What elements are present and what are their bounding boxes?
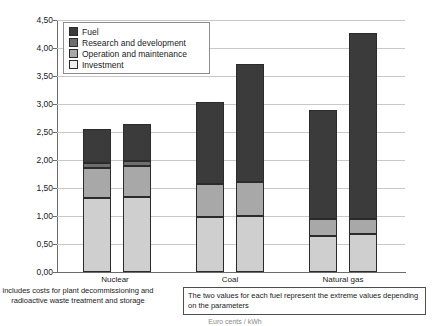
legend-label-fuel: Fuel: [82, 27, 99, 37]
bar-segment-operation-and-maintenance: [83, 168, 111, 198]
bar-segment-investment: [123, 197, 151, 272]
legend-swatch-fuel-icon: [69, 27, 78, 36]
bar-nuclear-low: [83, 129, 111, 272]
bar-natural-gas-high: [349, 33, 377, 272]
bar-segment-fuel: [349, 33, 377, 218]
legend-label-operation-and-maintenance: Operation and maintenance: [82, 49, 187, 59]
bar-natural-gas-low: [309, 110, 337, 272]
bar-segment-operation-and-maintenance: [349, 219, 377, 235]
bar-segment-operation-and-maintenance: [236, 182, 264, 216]
bar-segment-fuel: [309, 110, 337, 219]
bar-segment-research-and-development: [123, 161, 151, 166]
bar-segment-research-and-development: [83, 163, 111, 168]
gridline-4.50: [57, 20, 405, 21]
bar-nuclear-high: [123, 124, 151, 272]
bar-segment-investment: [349, 234, 377, 272]
nuclear-footnote: includes costs for plant decommissioning…: [2, 286, 154, 306]
legend-item-fuel: Fuel: [69, 26, 205, 37]
legend-item-research-and-development: Research and development: [69, 37, 205, 48]
y-tick-label-3.50: 3,50: [20, 72, 53, 81]
bar-segment-investment: [83, 198, 111, 272]
y-tick-label-2.50: 2,50: [20, 128, 53, 137]
legend-label-research-and-development: Research and development: [82, 38, 186, 48]
legend-swatch-research-and-development-icon: [69, 38, 78, 47]
bar-segment-fuel: [83, 129, 111, 163]
y-tick-label-4.00: 4,00: [20, 44, 53, 53]
y-tick-label-1.00: 1,00: [20, 212, 53, 221]
y-tick-label-2.00: 2,00: [20, 156, 53, 165]
x-axis-line: [57, 272, 406, 273]
chart-container: Euro cents / kWh 4,50 4,00 3,50 3,00 2,5…: [0, 0, 435, 326]
legend-item-operation-and-maintenance: Operation and maintenance: [69, 48, 205, 59]
y-tick-label-0.50: 0,50: [20, 240, 53, 249]
x-axis-label-nuclear: Nuclear: [60, 275, 170, 285]
bar-segment-investment: [236, 216, 264, 272]
y-tick-label-0.00: 0,00: [20, 268, 53, 277]
bar-segment-operation-and-maintenance: [123, 166, 151, 197]
bar-coal-low: [196, 102, 224, 272]
x-axis-label-natural-gas: Natural gas: [288, 275, 398, 285]
figure-caption: Euro cents / kWh: [120, 318, 350, 326]
extremes-note-box: The two values for each fuel represent t…: [183, 287, 426, 315]
legend-item-investment: Investment: [69, 59, 205, 70]
bar-segment-fuel: [196, 102, 224, 183]
y-tick-label-3.00: 3,00: [20, 100, 53, 109]
legend-swatch-investment-icon: [69, 60, 78, 69]
bar-segment-fuel: [236, 64, 264, 183]
y-tick-label-4.50: 4,50: [20, 16, 53, 25]
legend-label-investment: Investment: [82, 60, 124, 70]
x-axis-label-coal: Coal: [175, 275, 285, 285]
bar-segment-investment: [196, 217, 224, 272]
chart-legend: Fuel Research and development Operation …: [63, 22, 210, 74]
bar-segment-investment: [309, 236, 337, 272]
bar-segment-operation-and-maintenance: [196, 184, 224, 218]
bar-coal-high: [236, 64, 264, 272]
bar-segment-operation-and-maintenance: [309, 219, 337, 236]
bar-segment-fuel: [123, 124, 151, 161]
y-tick-label-1.50: 1,50: [20, 184, 53, 193]
legend-swatch-operation-and-maintenance-icon: [69, 49, 78, 58]
